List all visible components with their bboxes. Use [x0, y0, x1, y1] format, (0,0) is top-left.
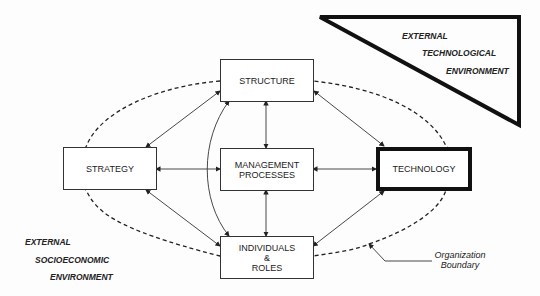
individuals-label-2: &	[264, 253, 270, 263]
tech-env-line3: ENVIRONMENT	[446, 66, 509, 76]
boundary-line1: Organization	[432, 250, 488, 260]
socio-env-line2: SOCIOECONOMIC	[35, 255, 109, 265]
individuals-box: INDIVIDUALS&ROLES	[220, 236, 314, 279]
strategy-box: STRATEGY	[63, 147, 157, 190]
socio-env-line3: ENVIRONMENT	[50, 272, 113, 282]
strategy-label: STRATEGY	[86, 164, 134, 174]
boundary-line2: Boundary	[432, 260, 488, 270]
structure-label: STRUCTURE	[239, 76, 295, 86]
management-box: MANAGEMENTPROCESSES	[220, 148, 314, 191]
tech-env-line2: TECHNOLOGICAL	[422, 48, 496, 58]
technology-label: TECHNOLOGY	[392, 164, 455, 174]
socio-env-line1: EXTERNAL	[25, 237, 71, 247]
structure-box: STRUCTURE	[220, 59, 314, 102]
individuals-label-3: ROLES	[252, 263, 283, 273]
technology-box: TECHNOLOGY	[376, 147, 472, 191]
individuals-label-1: INDIVIDUALS	[239, 243, 296, 253]
management-label-1: MANAGEMENT	[235, 160, 300, 170]
management-label-2: PROCESSES	[239, 170, 295, 180]
boundary-label: OrganizationBoundary	[432, 250, 488, 270]
tech-env-line1: EXTERNAL	[402, 31, 448, 41]
